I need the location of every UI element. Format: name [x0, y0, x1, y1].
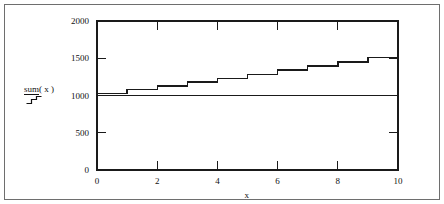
figure-container: sum( x ) 05001000150020000246810x: [0, 0, 444, 204]
series-step-line: [97, 54, 398, 93]
x-tick-label: 2: [147, 177, 167, 186]
x-tick-label: 8: [328, 177, 348, 186]
y-tick-label: 500: [55, 129, 89, 138]
x-tick-label: 6: [268, 177, 288, 186]
y-tick-label: 1500: [55, 54, 89, 63]
x-tick-label: 10: [388, 177, 408, 186]
y-tick-label: 2000: [55, 17, 89, 26]
x-tick-label: 4: [207, 177, 227, 186]
x-tick-label: 0: [87, 177, 107, 186]
y-tick-label: 0: [55, 166, 89, 175]
y-tick-label: 1000: [55, 92, 89, 101]
x-axis-title: x: [245, 191, 250, 200]
